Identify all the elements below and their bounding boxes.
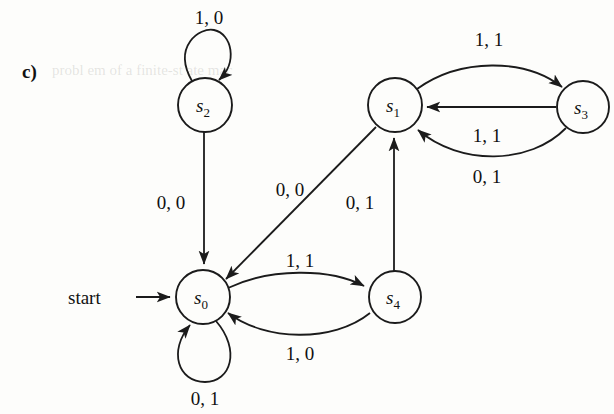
edge-label-s0-self: 0, 1 — [191, 388, 220, 409]
edge-s4-to-s0 — [228, 313, 370, 335]
edge-s1-to-s3 — [417, 65, 562, 89]
edge-label-s0-s4: 1, 1 — [286, 250, 315, 271]
node-s3[interactable]: s3 — [557, 81, 609, 133]
edge-label-s1-s0: 0, 0 — [276, 179, 305, 200]
state-machine-diagram: c) 1, 0 0, 0 0, 0 1, 1 1, 1 0, 1 0, 1 1,… — [0, 0, 614, 414]
edge-label-s3-s1-curve: 0, 1 — [473, 166, 502, 187]
part-label: c) — [22, 61, 37, 83]
edge-label-s3-s1-straight: 1, 1 — [473, 125, 502, 146]
edge-s0-self-loop — [178, 321, 230, 382]
node-s1[interactable]: s1 — [368, 78, 422, 132]
node-label-s1: s1 — [386, 95, 400, 120]
edge-label-s1-s3: 1, 1 — [475, 29, 504, 50]
node-label-s4: s4 — [386, 287, 400, 312]
start-label: start — [68, 287, 101, 308]
edge-label-s4-s0: 1, 0 — [286, 343, 315, 364]
node-label-s3: s3 — [574, 97, 588, 122]
edge-label-s2-self: 1, 0 — [195, 7, 224, 28]
node-s0[interactable]: s0 — [176, 270, 230, 324]
figure-canvas: probl em of a finite-st ate mac c) 1, 0 … — [0, 0, 614, 414]
node-label-s2: s2 — [196, 95, 210, 120]
edge-s0-to-s4 — [228, 273, 364, 288]
edge-s2-self-loop — [185, 30, 231, 81]
node-s2[interactable]: s2 — [178, 78, 232, 132]
edge-label-s4-s1: 0, 1 — [346, 192, 375, 213]
node-s4[interactable]: s4 — [369, 271, 421, 323]
node-label-s0: s0 — [194, 287, 208, 312]
edge-label-s2-s0: 0, 0 — [157, 192, 186, 213]
